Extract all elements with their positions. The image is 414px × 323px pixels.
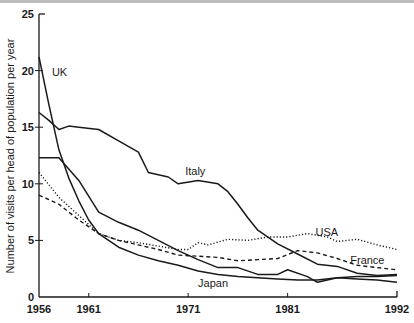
series-line-japan — [39, 158, 397, 282]
y-tick-label: 20 — [22, 65, 34, 77]
y-axis-title: Number of visits per head of population … — [4, 38, 16, 273]
series-line-italy — [39, 113, 397, 276]
x-tick-label: 1971 — [176, 303, 200, 315]
x-tick-label: 1961 — [76, 303, 100, 315]
axes: 051015202519561961197119811992 — [22, 8, 409, 315]
x-tick-label: 1992 — [385, 303, 409, 315]
x-tick-label: 1981 — [275, 303, 299, 315]
series-label-italy: Italy — [185, 165, 206, 177]
y-tick-label: 25 — [22, 8, 34, 20]
series-label-uk: UK — [52, 66, 68, 78]
x-tick-label: 1956 — [27, 303, 51, 315]
series-label-france: France — [350, 254, 384, 266]
series-line-uk — [39, 57, 397, 280]
series-line-france — [39, 195, 397, 270]
y-tick-label: 10 — [22, 178, 34, 190]
y-tick-label: 15 — [22, 121, 34, 133]
y-tick-label: 0 — [28, 291, 34, 303]
series-label-usa: USA — [315, 226, 338, 238]
y-tick-label: 5 — [28, 234, 34, 246]
series-label-japan: Japan — [198, 277, 228, 289]
series-labels: UKItalyJapanUSAFrance — [52, 66, 385, 289]
line-chart: 051015202519561961197119811992 UKItalyJa… — [0, 0, 414, 323]
series-group — [39, 57, 397, 282]
